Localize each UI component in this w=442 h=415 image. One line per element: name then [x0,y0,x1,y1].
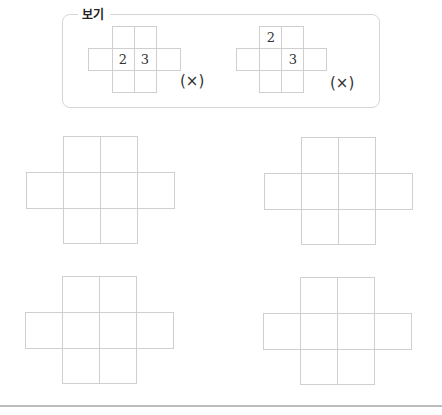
grid-cell[interactable] [62,276,100,313]
grid-cell[interactable] [62,312,100,349]
net-cell [112,26,135,49]
grid-cell[interactable] [100,172,138,209]
grid-cell[interactable] [301,137,339,174]
wrong-mark: (×) [330,74,354,92]
grid-cell[interactable] [301,209,339,245]
net-cell [134,26,157,49]
grid-cell[interactable] [338,209,376,245]
grid-cell[interactable] [99,348,137,384]
grid-cell[interactable] [137,172,175,209]
grid-cell[interactable] [338,173,376,210]
net-cell [88,48,113,71]
grid-cell[interactable] [338,137,376,174]
net-cell [259,70,282,93]
grid-cell[interactable] [99,276,137,313]
grid-cell[interactable] [99,312,137,349]
grid-cell[interactable] [337,313,375,350]
wrong-mark: (×) [180,72,204,90]
grid-cell[interactable] [301,173,339,210]
net-cell [156,48,181,71]
net-cell [281,26,304,49]
grid-cell[interactable] [63,172,101,209]
net-number: 3 [134,52,156,67]
net-cell [303,48,327,71]
grid-cell[interactable] [374,313,412,350]
grid-cell[interactable] [100,208,138,244]
net-number: 3 [282,52,304,67]
net-number: 2 [260,30,282,45]
grid-cell[interactable] [300,313,338,350]
net-cell [259,48,282,71]
net-cell [236,48,260,71]
net-cell [134,70,157,93]
grid-cell[interactable] [100,136,138,173]
grid-cell[interactable] [136,312,174,349]
grid-cell[interactable] [63,136,101,173]
grid-cell[interactable] [26,172,64,209]
grid-cell[interactable] [62,348,100,384]
grid-cell[interactable] [300,349,338,385]
net-cell [112,70,135,93]
net-cell [281,70,304,93]
grid-cell[interactable] [375,173,413,210]
grid-cell[interactable] [337,349,375,385]
grid-cell[interactable] [337,277,375,314]
grid-cell[interactable] [263,313,301,350]
page-divider [0,405,442,407]
grid-cell[interactable] [264,173,302,210]
grid-cell[interactable] [25,312,63,349]
grid-cell[interactable] [63,208,101,244]
net-number: 2 [112,52,134,67]
grid-cell[interactable] [300,277,338,314]
example-box-title: 보기 [78,8,110,22]
